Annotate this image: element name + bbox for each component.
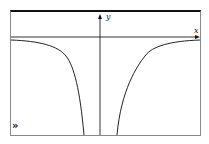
curve-right-branch [117, 40, 200, 135]
y-axis-label: y [106, 12, 111, 21]
x-axis-label: x [194, 26, 199, 35]
curve-left-branch [11, 40, 84, 135]
expand-icon[interactable]: » [12, 120, 18, 131]
graph-canvas [0, 0, 209, 144]
y-axis-arrow-icon [98, 14, 102, 19]
x-axis-arrow-icon [195, 35, 200, 39]
